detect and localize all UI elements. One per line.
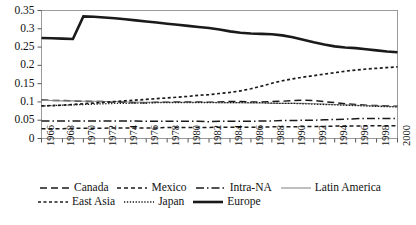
legend-item-east-asia: East Asia	[38, 194, 115, 208]
x-tick-label: 1978	[171, 125, 182, 146]
y-tick-label: 0	[0, 133, 35, 145]
x-tick-label: 1982	[213, 125, 224, 146]
legend-item-japan: Japan	[124, 194, 184, 208]
y-tick-label: 0.05	[0, 114, 35, 126]
legend-swatch-icon	[281, 182, 311, 192]
x-tick-label: 1974	[129, 125, 140, 146]
x-tick-label: 1992	[318, 125, 329, 146]
legend-label: East Asia	[72, 194, 115, 208]
x-tick-label: 1972	[108, 125, 119, 146]
legend-label: Europe	[227, 194, 260, 208]
y-tick-label: 0.15	[0, 78, 35, 90]
x-tick-label: 1980	[192, 125, 203, 146]
x-tick-label: 1990	[297, 125, 308, 146]
legend-swatch-icon	[193, 196, 223, 206]
legend-label: Mexico	[151, 180, 186, 194]
x-tick-label: 1984	[234, 125, 245, 146]
x-tick-label: 1966	[46, 125, 57, 146]
x-tick-label: 1998	[381, 125, 392, 146]
legend-swatch-icon	[117, 182, 147, 192]
series-line-east-asia	[42, 67, 398, 106]
legend-swatch-icon	[38, 196, 68, 206]
legend-swatch-icon	[124, 196, 154, 206]
x-tick-label: 2000	[402, 125, 413, 146]
x-tick-label: 1986	[255, 125, 266, 146]
legend-label: Japan	[158, 194, 184, 208]
x-tick-label: 1970	[87, 125, 98, 146]
x-tick-label: 1988	[276, 125, 287, 146]
y-tick-label: 0.35	[0, 5, 35, 17]
y-tick-label: 0.2	[0, 59, 35, 71]
x-tick-label: 1994	[339, 125, 350, 146]
legend-label: Intra-NA	[230, 180, 272, 194]
legend-item-latin-america: Latin America	[281, 180, 381, 194]
legend-label: Canada	[74, 180, 108, 194]
chart-legend: CanadaMexicoIntra-NALatin America East A…	[36, 180, 412, 208]
y-tick-label: 0.25	[0, 41, 35, 53]
legend-swatch-icon	[196, 182, 226, 192]
legend-item-europe: Europe	[193, 194, 260, 208]
legend-item-canada: Canada	[40, 180, 108, 194]
legend-label: Latin America	[315, 180, 381, 194]
legend-item-mexico: Mexico	[117, 180, 186, 194]
legend-item-intra-na: Intra-NA	[196, 180, 272, 194]
y-tick-label: 0.3	[0, 23, 35, 35]
series-line-europe	[42, 16, 398, 52]
legend-swatch-icon	[40, 182, 70, 192]
x-tick-label: 1996	[360, 125, 371, 146]
y-tick-marks	[38, 11, 42, 139]
y-tick-label: 0.1	[0, 96, 35, 108]
x-tick-label: 1968	[66, 125, 77, 146]
series-line-intra-na	[42, 118, 398, 121]
series-lines	[42, 16, 398, 128]
legend-row: CanadaMexicoIntra-NALatin America	[36, 180, 412, 194]
x-tick-label: 1976	[150, 125, 161, 146]
legend-row: East AsiaJapanEurope	[36, 194, 412, 208]
line-chart: 0.350.30.250.20.150.10.050 1966196819701…	[0, 0, 416, 225]
